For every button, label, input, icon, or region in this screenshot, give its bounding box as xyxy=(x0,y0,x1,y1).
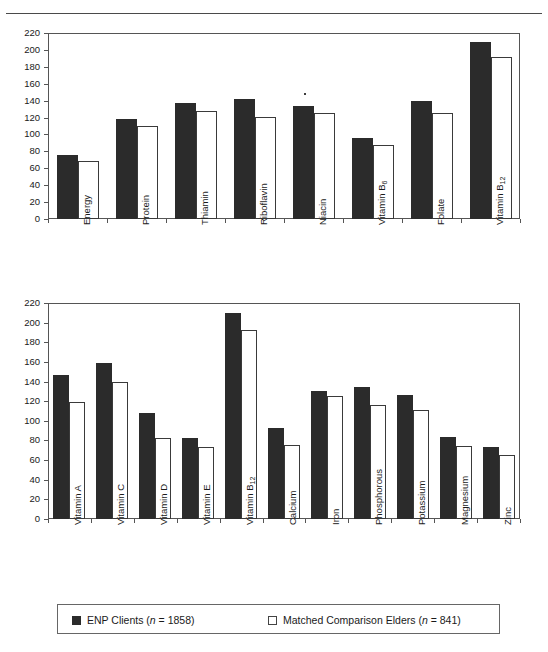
x-axis-tick-mark xyxy=(166,219,167,223)
bar-enp xyxy=(440,437,456,519)
bar-enp xyxy=(225,313,241,519)
y-axis-tick-label: 160 xyxy=(0,357,40,367)
x-axis-tick-mark xyxy=(391,519,392,523)
y-axis-tick-label: 80 xyxy=(0,146,40,156)
y-axis-tick-mark xyxy=(44,67,48,68)
x-axis-category-label: Vitamin D xyxy=(159,484,169,525)
y-axis-tick-mark xyxy=(44,101,48,102)
chart-legend: ENP Clients (n = 1858)Matched Comparison… xyxy=(57,604,500,634)
bar-enp xyxy=(175,103,196,219)
y-axis-tick-label: 120 xyxy=(0,113,40,123)
legend-item-matched: Matched Comparison Elders (n = 841) xyxy=(268,614,461,626)
bar-enp xyxy=(182,438,198,519)
x-axis-tick-mark xyxy=(107,219,108,223)
x-axis-tick-mark xyxy=(48,219,49,223)
y-axis-tick-mark xyxy=(44,460,48,461)
x-axis-tick-mark xyxy=(402,219,403,223)
x-axis-tick-mark xyxy=(263,519,264,523)
y-axis-tick-label: 140 xyxy=(0,96,40,106)
y-axis-tick-label: 20 xyxy=(0,197,40,207)
x-axis-category-label: Vitamin B6 xyxy=(377,181,388,225)
legend-label: ENP Clients (n = 1858) xyxy=(87,614,195,626)
y-axis-tick-mark xyxy=(44,421,48,422)
top-divider-rule xyxy=(6,13,542,14)
x-axis-tick-mark xyxy=(225,219,226,223)
bar-enp xyxy=(311,391,327,519)
bar-enp xyxy=(411,101,432,219)
y-axis-tick-label: 100 xyxy=(0,129,40,139)
y-axis-tick-mark xyxy=(44,342,48,343)
x-axis-tick-mark xyxy=(91,519,92,523)
bar-enp xyxy=(139,413,155,519)
x-axis-category-label: Thiamin xyxy=(200,191,210,225)
chart-panel-nutrients: 020406080100120140160180200220EnergyProt… xyxy=(0,22,548,302)
legend-swatch-matched-icon xyxy=(268,616,277,625)
bar-enp xyxy=(354,387,370,519)
x-axis-tick-mark xyxy=(134,519,135,523)
y-axis-tick-mark xyxy=(44,499,48,500)
bar-enp xyxy=(397,395,413,519)
bar-enp xyxy=(234,99,255,219)
legend-item-enp: ENP Clients (n = 1858) xyxy=(72,614,195,626)
x-axis-category-label: Vitamin A xyxy=(73,485,83,525)
x-axis-category-label: Energy xyxy=(82,195,92,225)
x-axis-category-label: Folate xyxy=(436,199,446,225)
y-axis-tick-mark xyxy=(44,33,48,34)
x-axis-tick-mark xyxy=(177,519,178,523)
bar-enp xyxy=(116,119,137,219)
y-axis-tick-mark xyxy=(44,362,48,363)
y-axis-tick-label: 40 xyxy=(0,180,40,190)
x-axis-category-label: Calcium xyxy=(288,491,298,525)
y-axis-tick-label: 0 xyxy=(0,514,40,524)
scan-artifact-speck xyxy=(304,93,306,95)
x-axis-category-label: Potassium xyxy=(417,481,427,525)
y-axis-tick-label: 180 xyxy=(0,337,40,347)
y-axis-tick-mark xyxy=(44,480,48,481)
y-axis-tick-mark xyxy=(44,151,48,152)
legend-label: Matched Comparison Elders (n = 841) xyxy=(283,614,461,626)
bar-enp xyxy=(470,42,491,219)
x-axis-category-label: Protein xyxy=(141,195,151,225)
y-axis-tick-label: 60 xyxy=(0,455,40,465)
y-axis-tick-mark xyxy=(44,134,48,135)
x-axis-tick-mark xyxy=(343,219,344,223)
y-axis-tick-label: 40 xyxy=(0,475,40,485)
y-axis-tick-label: 220 xyxy=(0,28,40,38)
x-axis-category-label: Niacin xyxy=(318,199,328,225)
y-axis-tick-mark xyxy=(44,50,48,51)
x-axis-tick-mark xyxy=(520,519,521,523)
y-axis-tick-label: 200 xyxy=(0,45,40,55)
y-axis-tick-mark xyxy=(44,185,48,186)
x-axis-category-label: Vitamin B12 xyxy=(245,477,256,525)
y-axis-tick-label: 0 xyxy=(0,214,40,224)
bar-enp xyxy=(268,428,284,519)
chart-panel-vitamins-minerals: 020406080100120140160180200220Vitamin AV… xyxy=(0,292,548,592)
y-axis-tick-label: 20 xyxy=(0,494,40,504)
y-axis-tick-label: 60 xyxy=(0,163,40,173)
x-axis-tick-mark xyxy=(48,519,49,523)
x-axis-category-label: Vitamin E xyxy=(202,485,212,525)
y-axis-tick-mark xyxy=(44,168,48,169)
bar-enp xyxy=(483,447,499,519)
x-axis-tick-mark xyxy=(284,219,285,223)
x-axis-category-label: Vitamin B12 xyxy=(495,177,506,225)
y-axis-tick-label: 100 xyxy=(0,416,40,426)
bar-matched xyxy=(327,396,343,519)
bar-enp xyxy=(352,138,373,219)
x-axis-category-label: Magnesium xyxy=(460,476,470,525)
x-axis-category-label: Iron xyxy=(331,509,341,525)
bar-enp xyxy=(53,375,69,519)
y-axis-tick-label: 80 xyxy=(0,435,40,445)
y-axis-tick-mark xyxy=(44,84,48,85)
x-axis-category-label: Riboflavin xyxy=(259,183,269,225)
y-axis-tick-label: 160 xyxy=(0,79,40,89)
y-axis-tick-mark xyxy=(44,303,48,304)
y-axis-tick-mark xyxy=(44,323,48,324)
x-axis-tick-mark xyxy=(477,519,478,523)
y-axis-tick-mark xyxy=(44,440,48,441)
y-axis-tick-mark xyxy=(44,401,48,402)
legend-swatch-enp-icon xyxy=(72,616,81,625)
x-axis-tick-mark xyxy=(220,519,221,523)
bar-enp xyxy=(96,363,112,519)
y-axis-tick-label: 180 xyxy=(0,62,40,72)
